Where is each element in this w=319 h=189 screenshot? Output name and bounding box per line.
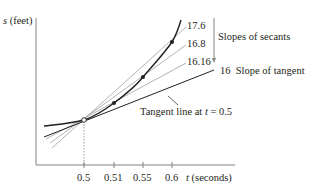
- secant-slope-16.16: 16.16: [187, 56, 211, 68]
- tangent-slope-label: 16 Slope of tangent: [220, 65, 305, 77]
- secant-slope-17.6: 17.6: [187, 20, 205, 32]
- figure-canvas: [0, 0, 319, 189]
- point-t-0.51: [112, 101, 116, 105]
- secant-tangent-figure: s (feet) 0.5 0.51 0.55 0.6 t (seconds) 1…: [0, 0, 319, 189]
- x-tick-0.5: 0.5: [77, 172, 90, 184]
- point-t-0.55: [141, 75, 145, 79]
- y-axis-label: s (feet): [3, 15, 32, 27]
- y-axis-unit: (feet): [10, 15, 33, 26]
- tangent-slope-value: 16: [220, 65, 231, 76]
- point-of-tangency: [82, 118, 87, 123]
- y-axis-var: s: [3, 15, 7, 26]
- x-axis-var: t: [186, 172, 189, 183]
- tangent-slope-text: Slope of tangent: [236, 65, 305, 76]
- x-axis-label: t (seconds): [186, 172, 232, 184]
- secants-bracket-label: Slopes of secants: [218, 31, 290, 43]
- secants-bracket-arrow: [212, 58, 216, 63]
- secant-slope-16.8: 16.8: [187, 38, 205, 50]
- point-t-0.6: [170, 40, 174, 44]
- x-tick-0.55: 0.55: [133, 172, 151, 184]
- tangent-annotation: Tangent line at t = 0.5: [140, 106, 232, 118]
- tangent-line: [44, 70, 214, 137]
- tangent-annotation-leader: [168, 96, 178, 105]
- tangent-annotation-prefix: Tangent line at: [140, 106, 205, 117]
- secant-lines: [46, 27, 186, 148]
- tangent-annotation-suffix: = 0.5: [208, 106, 232, 117]
- x-axis-unit: (seconds): [192, 172, 232, 183]
- x-tick-0.51: 0.51: [104, 172, 122, 184]
- x-tick-0.6: 0.6: [165, 172, 178, 184]
